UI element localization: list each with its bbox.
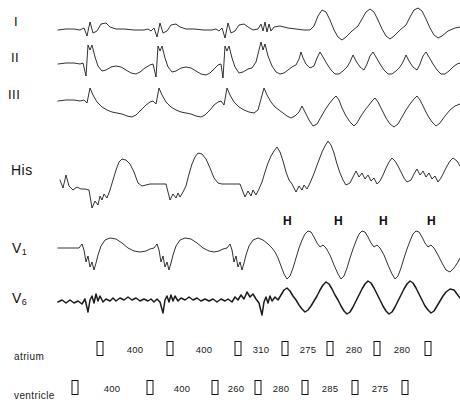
ventricle-interval-value: 285 — [322, 383, 338, 394]
ventricle-interval-value: 260 — [228, 383, 244, 394]
row-label-ventricle: ventricle — [14, 390, 55, 401]
ventricle-event-marker — [352, 380, 359, 395]
channel-label-lead-ii: II — [11, 50, 19, 65]
ecg-figure: I II III His V1 V6 HHHH atrium ventricle… — [0, 0, 460, 410]
ventricle-interval-value: 400 — [104, 383, 120, 394]
atrium-interval-value: 275 — [300, 344, 316, 355]
waveform-canvas — [0, 0, 460, 410]
trace-his — [60, 141, 460, 208]
ventricle-event-marker — [147, 380, 154, 395]
v6-letter: V — [12, 290, 22, 306]
atrium-event-marker — [97, 341, 104, 356]
atrium-interval-value: 280 — [394, 344, 410, 355]
atrium-interval-value: 280 — [346, 344, 362, 355]
v6-subscript: 6 — [22, 297, 28, 307]
ventricle-interval-value: 280 — [273, 383, 289, 394]
his-deflection-label-4: H — [427, 214, 436, 228]
ventricle-event-marker — [212, 380, 219, 395]
ventricle-event-marker — [302, 380, 309, 395]
ventricle-interval-value: 275 — [372, 383, 388, 394]
channel-label-v6: V6 — [12, 290, 27, 306]
atrium-interval-value: 400 — [127, 344, 143, 355]
atrium-event-marker — [235, 341, 242, 356]
atrium-event-marker — [327, 341, 334, 356]
trace-v6 — [58, 281, 460, 315]
ventricle-interval-value: 400 — [174, 383, 190, 394]
ventricle-event-marker — [402, 380, 409, 395]
atrium-event-marker — [374, 341, 381, 356]
trace-lead-iii — [58, 88, 460, 127]
atrium-event-marker — [167, 341, 174, 356]
atrium-event-marker — [425, 341, 432, 356]
v1-subscript: 1 — [22, 247, 28, 257]
trace-lead-i — [58, 8, 460, 40]
atrium-interval-value: 310 — [253, 344, 269, 355]
channel-label-his: His — [11, 162, 33, 178]
row-label-atrium: atrium — [14, 351, 44, 362]
trace-lead-ii — [58, 42, 460, 78]
his-deflection-label-3: H — [379, 214, 388, 228]
ventricle-event-marker — [255, 380, 262, 395]
atrium-event-marker — [282, 341, 289, 356]
ventricle-event-marker — [72, 380, 79, 395]
channel-label-lead-iii: III — [8, 87, 20, 102]
atrium-interval-value: 400 — [196, 344, 212, 355]
channel-label-v1: V1 — [12, 240, 27, 256]
channel-label-lead-i: I — [14, 14, 18, 29]
v1-letter: V — [12, 240, 22, 256]
trace-v1 — [58, 231, 460, 279]
his-deflection-label-2: H — [334, 214, 343, 228]
his-deflection-label-1: H — [283, 214, 292, 228]
